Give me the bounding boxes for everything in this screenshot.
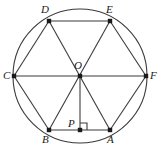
vertex-dot-B bbox=[47, 128, 51, 132]
vertex-dot-F bbox=[144, 74, 148, 78]
geometry-figure: A B C D E F O P bbox=[0, 0, 162, 154]
vertex-label-A: A bbox=[107, 134, 114, 145]
vertex-label-P: P bbox=[68, 118, 75, 129]
vertex-dot-C bbox=[12, 74, 16, 78]
vertex-label-D: D bbox=[41, 4, 49, 15]
vertex-label-E: E bbox=[106, 4, 113, 15]
vertex-dot-P bbox=[78, 128, 82, 132]
vertex-dot-O bbox=[78, 74, 82, 78]
vertex-label-C: C bbox=[3, 70, 10, 81]
vertex-dot-D bbox=[47, 19, 51, 23]
vertex-label-F: F bbox=[150, 70, 157, 81]
vertex-dot-E bbox=[108, 19, 112, 23]
vertex-label-O: O bbox=[74, 60, 82, 71]
geometry-canvas bbox=[0, 0, 162, 154]
vertex-dot-A bbox=[108, 128, 112, 132]
vertex-label-B: B bbox=[42, 134, 49, 145]
segment-side-FA bbox=[110, 76, 146, 130]
